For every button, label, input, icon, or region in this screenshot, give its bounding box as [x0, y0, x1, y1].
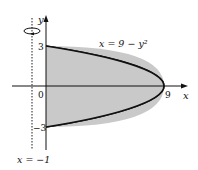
tick-y-bottom: −3 — [33, 123, 47, 133]
tick-y-top: 3 — [38, 42, 44, 52]
y-axis-arrow-icon — [44, 15, 49, 22]
curve-label: x = 9 − y² — [99, 38, 148, 49]
region-diagram: y x 3 0 −3 9 x = 9 − y² x = −1 — [0, 0, 198, 170]
x-axis-label: x — [183, 90, 189, 101]
tick-x-vertex: 9 — [165, 90, 171, 100]
rotation-arrow-icon — [24, 28, 40, 35]
rotation-axis-label: x = −1 — [17, 154, 50, 165]
y-axis-label: y — [37, 14, 44, 25]
tick-origin: 0 — [38, 90, 44, 100]
x-axis-arrow-icon — [181, 84, 188, 89]
